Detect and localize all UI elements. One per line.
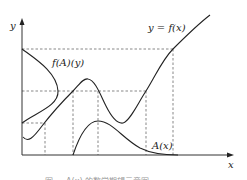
diagram-canvas: y x y = f(x) f(A)(y) A(x) 图 … A(x) 的数学期望… <box>0 0 247 180</box>
curve-f-x <box>23 15 210 140</box>
guide-lines <box>22 49 173 155</box>
label-A-x: A(x) <box>151 140 173 151</box>
label-density-y: f(A)(y) <box>51 57 84 68</box>
y-axis-label: y <box>9 20 16 31</box>
axes <box>20 18 235 158</box>
figure-caption: 图 … A(x) 的数学期望示意图 <box>45 176 149 180</box>
y-axis-arrow-icon <box>20 18 25 25</box>
x-axis-arrow-icon <box>227 153 234 158</box>
x-axis-label: x <box>228 159 234 170</box>
label-f-x: y = f(x) <box>147 22 186 33</box>
